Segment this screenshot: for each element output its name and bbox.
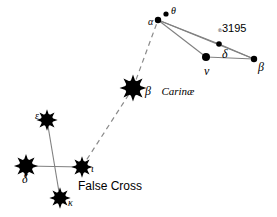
epsilon-carinae-marker [36, 109, 57, 130]
theta-volantis-marker [163, 11, 168, 16]
line-alpha-nu [158, 20, 206, 57]
line-delta-beta [219, 44, 254, 59]
delta-volantis-marker [216, 41, 222, 47]
line-nu-beta [206, 57, 254, 59]
iota-carinae-marker [71, 156, 92, 177]
alpha-volantis-marker [155, 17, 161, 23]
line-betacar-alpha [133, 20, 158, 88]
star-chart: εδκιαθδνβ β Carinæ False Cross ℗3195 [0, 0, 277, 217]
star-chart-canvas [0, 0, 277, 217]
star-markers [14, 11, 257, 208]
line-iota-betacar [82, 88, 133, 167]
beta-carinae-marker [120, 75, 147, 102]
line-epsilon-kappa [47, 120, 60, 198]
delta-velorum-marker [14, 154, 38, 178]
pointer-dashed-lines [82, 20, 158, 167]
nu-volantis-marker [202, 53, 210, 61]
beta-volantis-marker [251, 56, 257, 62]
kappa-velorum-marker [49, 187, 70, 208]
false-cross-lines [26, 120, 82, 198]
